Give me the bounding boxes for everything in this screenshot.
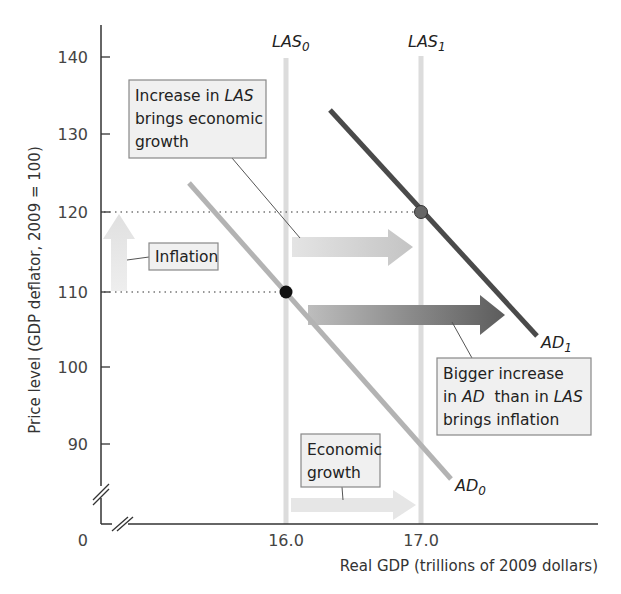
y-tick-120: 120 (57, 203, 88, 222)
las1-label: LAS1 (408, 32, 446, 54)
y-tick-130: 130 (57, 125, 88, 144)
y-axis-label: Price level (GDP deflator, 2009 = 100) (26, 146, 44, 434)
y-ticks (101, 57, 110, 444)
y-tick-90: 90 (68, 435, 88, 454)
inflation-arrow (103, 214, 135, 291)
y-tick-140: 140 (57, 48, 88, 67)
ad-shift-arrow (308, 295, 505, 335)
ad1-label: AD1 (540, 333, 572, 355)
ad-annotation-line2: in AD than in LAS (443, 388, 583, 406)
ad-annotation-leader (452, 322, 472, 358)
ad-annotation-line3: brings inflation (443, 411, 559, 429)
x-tick-16: 16.0 (268, 531, 304, 550)
las-annotation-leader (232, 158, 300, 238)
las0-label: LAS0 (272, 32, 310, 54)
las-annotation-line1: Increase in LAS (135, 87, 254, 105)
chart: Price level (GDP deflator, 2009 = 100) (0, 0, 621, 594)
growth-line1: Economic (307, 441, 382, 459)
equilibrium-point-0 (280, 286, 293, 299)
y-tick-100: 100 (57, 358, 88, 377)
origin-label: 0 (78, 531, 88, 550)
ad1-curve (330, 110, 537, 336)
equilibrium-point-1 (415, 206, 428, 219)
x-axis-label: Real GDP (trillions of 2009 dollars) (340, 557, 598, 575)
inflation-label: Inflation (155, 248, 218, 266)
las-annotation-line2: brings economic (135, 110, 263, 128)
y-tick-110: 110 (57, 283, 88, 302)
x-tick-17: 17.0 (403, 531, 439, 550)
ad0-label: AD0 (454, 476, 486, 498)
las-shift-arrow (292, 229, 413, 266)
las-annotation-line3: growth (135, 133, 189, 151)
growth-line2: growth (307, 464, 361, 482)
growth-arrow (291, 490, 416, 520)
inflation-leader (127, 257, 149, 260)
ad-annotation-line1: Bigger increase (443, 365, 564, 383)
